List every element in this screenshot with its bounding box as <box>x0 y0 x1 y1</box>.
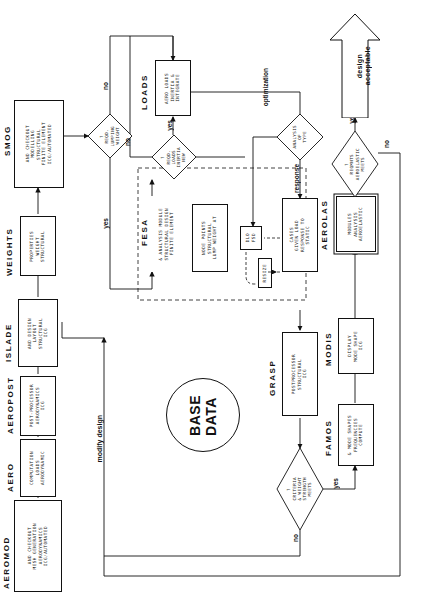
edge-label-strength-no: no <box>292 534 299 542</box>
module-line: ICG <box>303 369 307 378</box>
module-box-aerolas[interactable]: AEROELASTIC ANALYSIS MODULES <box>336 196 376 252</box>
module-line: MODULES <box>348 213 352 235</box>
database-node: DATA BASE <box>166 378 240 452</box>
decision-line: OF <box>298 134 302 140</box>
decision-new-inertia-loads[interactable]: NEW INERTIA LOADS REQD. ? <box>152 135 196 179</box>
database-label-line: BASE <box>188 395 202 436</box>
module-line: INTEGRATE <box>176 74 180 102</box>
module-line: AEROELASTIC <box>359 207 363 241</box>
module-line: DISPLAY <box>348 335 352 357</box>
decision-line: LOADS <box>172 150 176 165</box>
decision-line: REQMNTS <box>350 154 354 174</box>
module-box-famos[interactable]: COMPUTE FREQUENCIES & MODE SHAPES <box>338 404 374 466</box>
decision-line: ANALYSIS <box>293 125 297 148</box>
decision-line: ? <box>345 163 349 166</box>
decision-line: INERTIA <box>177 147 181 167</box>
decision-line: & WEIGHT <box>298 477 302 500</box>
decision-line: ? <box>161 156 165 159</box>
edge-label-inertia-no: no <box>124 138 131 146</box>
module-line: COMPUTE <box>359 424 363 446</box>
module-title-famos: FAMOS <box>324 416 333 456</box>
module-title-modis: MODIS <box>324 326 333 366</box>
edge-label-strength-yes: yes <box>332 478 339 489</box>
decision-line: STRENGTH <box>303 477 307 500</box>
database-label-line: DATA <box>204 395 218 436</box>
terminator-acceptable-design: acceptable design <box>330 14 380 118</box>
decision-line: AEROELASTIC <box>356 148 360 180</box>
module-line: STRUCTURAL <box>298 359 302 390</box>
module-box-grasp[interactable]: ICG STRUCTURAL POSTPROCESSOR <box>282 332 318 416</box>
module-line: MODE SHAPE <box>354 331 358 362</box>
module-title-aerolas: AEROLAS <box>320 202 329 250</box>
terminator-line: design <box>356 54 363 78</box>
module-line: POSTPROCESSOR <box>292 354 296 394</box>
edge-label-aeroelastic-no: no <box>383 140 390 148</box>
module-line: ICG <box>359 341 363 350</box>
decision-type-of-analysis[interactable]: TYPE OF ANALYSIS <box>277 114 323 160</box>
decision-line: TYPE <box>303 131 307 143</box>
decision-line: ? <box>287 488 291 491</box>
decision-meets-strength-weight[interactable]: MEETS STRENGTH & WEIGHT CRITERIA ? <box>277 448 323 530</box>
module-line: INERTIA & <box>171 74 175 102</box>
module-box-modis[interactable]: ICG MODE SHAPE DISPLAY <box>338 318 374 374</box>
flowchart-canvas: ICG/AUTOMATED AERODYNAMICS MESH GENERATI… <box>0 0 423 596</box>
decision-line: MEETS <box>308 482 312 497</box>
decision-line: CRITERIA <box>293 477 297 500</box>
decision-meets-aeroelastic[interactable]: MEETS AEROELASTIC REQMNTS ? <box>332 131 378 197</box>
edge-label-response: response <box>293 164 300 193</box>
decision-line: REQD. <box>167 150 171 165</box>
decision-line: NEW <box>182 153 186 162</box>
edge-label-inertia-yes: yes <box>166 120 173 131</box>
module-box-loads[interactable]: INTEGRATE INERTIA & AERO LOADS <box>155 60 191 116</box>
edge-label-modify-design: modify design <box>96 415 103 462</box>
module-line: AERO LOADS <box>165 73 169 104</box>
terminator-line: acceptable <box>364 46 371 85</box>
decision-line: MEETS <box>361 157 365 172</box>
module-title-grasp: GRASP <box>268 348 277 396</box>
module-line: ANALYSIS <box>354 212 358 237</box>
module-line: FREQUENCIES <box>354 418 358 452</box>
module-title-loads: LOADS <box>140 68 149 110</box>
module-line: & MODE SHAPES <box>348 415 352 455</box>
edge-label-optimization: optimization <box>262 68 269 106</box>
